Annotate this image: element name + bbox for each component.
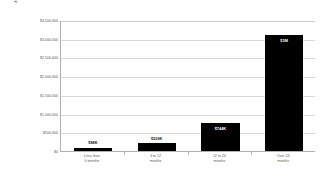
x-axis-tick (251, 152, 252, 155)
x-axis-category-label: 6 to 12 months (124, 154, 188, 164)
bars-group: $88K$209K$744K$3M (61, 21, 315, 151)
y-axis-tick-label: $2,500,000 (20, 54, 58, 62)
y-axis-tick-label: $3,500,000 (20, 17, 58, 25)
bar-slot: $3M (265, 21, 303, 151)
y-axis-tick-labels: $0$500,000$1,000,000$1,500,000$2,000,000… (20, 21, 58, 152)
x-axis-category-labels: Less than 6 months6 to 12 months12 to 24… (60, 154, 315, 174)
bar[interactable] (265, 35, 303, 151)
bar-slot: $88K (74, 21, 112, 151)
y-axis-tick-label: $1,000,000 (20, 111, 58, 119)
bar-value-label: $88K (88, 140, 97, 146)
bar-value-label: $3M (280, 38, 288, 44)
bar-value-label: $209K (151, 136, 162, 142)
bar-slot: $744K (201, 21, 239, 151)
bar[interactable] (74, 148, 112, 151)
bar-chart: Average budget (estimated, in US$) $0$50… (0, 0, 330, 179)
x-axis-category-label: 12 to 24 months (188, 154, 252, 164)
y-axis-tick-label: $3,000,000 (20, 36, 58, 44)
y-axis-tick-label: $2,000,000 (20, 73, 58, 81)
y-axis-tick-label: $500,000 (20, 129, 58, 137)
y-axis-tick-label: $1,500,000 (20, 92, 58, 100)
y-axis-tick-label: $0 (20, 148, 58, 156)
x-axis-category-label: Over 24 months (251, 154, 315, 164)
bar-slot: $209K (138, 21, 176, 151)
x-axis-category-label: Less than 6 months (60, 154, 124, 164)
x-axis-tick (124, 152, 125, 155)
bar[interactable] (138, 143, 176, 151)
x-axis-tick (188, 152, 189, 155)
plot-area: $88K$209K$744K$3M (60, 21, 315, 152)
bar-value-label: $744K (215, 126, 226, 132)
